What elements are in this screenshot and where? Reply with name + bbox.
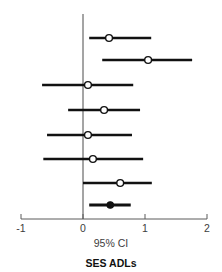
forest-row [47,132,132,139]
estimate-point-marker [101,107,108,114]
forest-row [83,180,152,187]
plot-title: SES ADLs [86,257,137,269]
forest-plot-svg: -1012 95% CI SES ADLs [0,0,222,272]
estimate-point-marker [85,132,92,139]
summary-point-marker [107,202,113,208]
estimate-point-marker [106,35,113,42]
x-axis-caption: 95% CI [94,237,128,249]
forest-row [89,35,151,42]
forest-row [102,57,192,64]
x-tick-label: 1 [142,222,148,234]
estimate-point-marker [145,57,152,64]
forest-plot-figure: -1012 95% CI SES ADLs [0,0,222,272]
forest-row [42,82,133,89]
estimate-point-marker [117,180,124,187]
x-axis-group [21,214,207,219]
plot-area: -1012 95% CI SES ADLs [0,0,222,272]
x-tick-label: -1 [16,222,25,234]
estimate-point-marker [90,156,97,163]
ci-rows-group [42,35,192,209]
x-tick-labels: -1012 [16,222,210,234]
forest-row [68,107,140,114]
x-tick-label: 0 [80,222,86,234]
forest-row [89,202,131,208]
estimate-point-marker [85,82,92,89]
forest-row [43,156,143,163]
x-tick-label: 2 [204,222,210,234]
